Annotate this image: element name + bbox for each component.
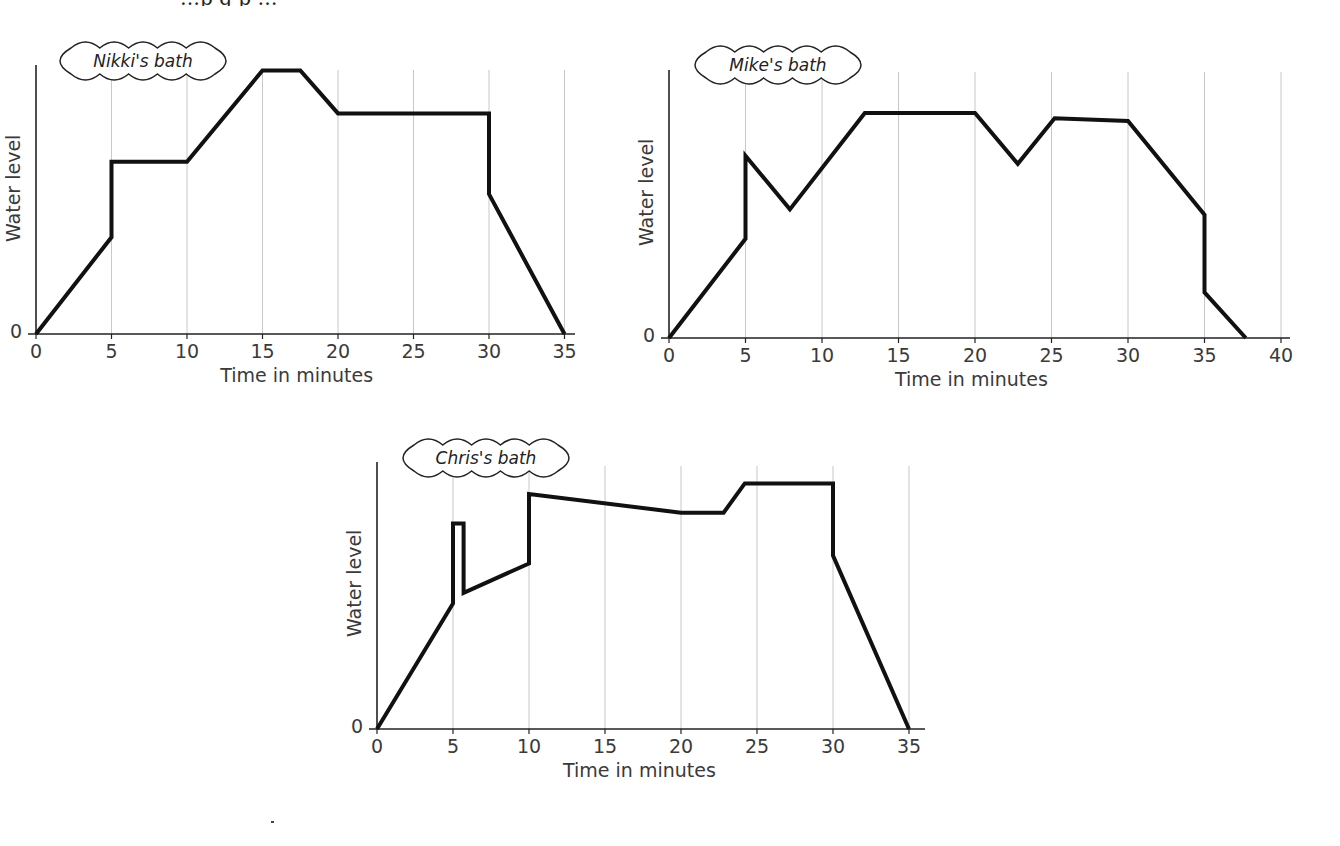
- chart-chris-bath: Chris's bath Water level Time in minutes…: [0, 0, 1000, 846]
- y-tick-label: 0: [351, 715, 363, 737]
- x-tick-label: 15: [593, 735, 617, 757]
- water-level-line: [377, 483, 909, 729]
- x-tick-label: 0: [371, 735, 383, 757]
- x-tick-label: 30: [1116, 344, 1140, 366]
- stray-mark: [271, 821, 274, 823]
- x-tick-label: 35: [1192, 344, 1216, 366]
- x-axis-label: Time in minutes: [563, 759, 716, 781]
- x-tick-label: 35: [897, 735, 921, 757]
- x-tick-label: 5: [447, 735, 459, 757]
- x-tick-label: 20: [669, 735, 693, 757]
- x-tick-label: 10: [517, 735, 541, 757]
- chart-plot: [0, 0, 1000, 846]
- y-axis-label: Water level: [343, 530, 365, 637]
- chart-title-bubble: Chris's bath: [400, 441, 572, 475]
- x-tick-label: 25: [1039, 344, 1063, 366]
- x-tick-label: 30: [821, 735, 845, 757]
- x-tick-label: 25: [745, 735, 769, 757]
- x-tick-label: 40: [1269, 344, 1293, 366]
